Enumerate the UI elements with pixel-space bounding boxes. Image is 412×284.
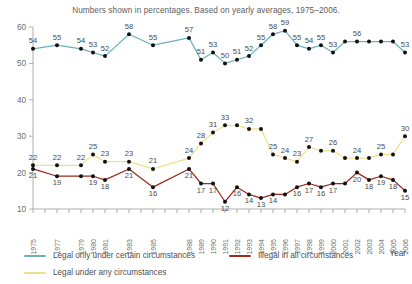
svg-text:57: 57 (185, 25, 193, 34)
svg-text:14: 14 (269, 196, 277, 205)
chart-legend: Legal only under certain circumstances I… (24, 249, 412, 283)
svg-text:21: 21 (29, 171, 37, 180)
svg-text:53: 53 (89, 40, 97, 49)
svg-text:13: 13 (257, 200, 265, 209)
svg-text:19: 19 (377, 178, 385, 187)
chart-series (31, 29, 407, 204)
svg-text:24: 24 (185, 146, 193, 155)
svg-text:14: 14 (245, 196, 253, 205)
svg-text:55: 55 (317, 33, 325, 42)
svg-text:23: 23 (101, 149, 109, 158)
svg-text:50: 50 (221, 51, 229, 60)
svg-text:21: 21 (149, 156, 157, 165)
svg-text:59: 59 (281, 18, 289, 27)
svg-text:53: 53 (401, 40, 409, 49)
svg-text:55: 55 (293, 33, 301, 42)
svg-text:52: 52 (101, 44, 109, 53)
svg-text:16: 16 (317, 189, 325, 198)
svg-text:21: 21 (185, 171, 193, 180)
legend-item-illegal-all[interactable]: Illegal in all circumstances (229, 249, 353, 262)
svg-text:25: 25 (89, 142, 97, 151)
svg-text:24: 24 (353, 146, 361, 155)
svg-text:40: 40 (17, 96, 27, 105)
svg-text:54: 54 (305, 36, 313, 45)
svg-text:28: 28 (197, 131, 205, 140)
svg-text:60: 60 (17, 23, 27, 32)
svg-text:16: 16 (293, 189, 301, 198)
legend-item-legal-any[interactable]: Legal under any circumstances (24, 266, 166, 279)
line-chart: Numbers shown in percentages. Based on y… (0, 0, 412, 284)
legend-swatch-teal (24, 255, 46, 257)
svg-text:30: 30 (17, 132, 27, 141)
svg-text:22: 22 (29, 153, 37, 162)
svg-text:16: 16 (233, 189, 241, 198)
svg-text:27: 27 (305, 135, 313, 144)
svg-text:23: 23 (293, 149, 301, 158)
svg-text:55: 55 (149, 33, 157, 42)
svg-text:54: 54 (29, 36, 37, 45)
svg-text:19: 19 (53, 178, 61, 187)
legend-label-illegal-all: Illegal in all circumstances (258, 251, 353, 260)
svg-text:26: 26 (329, 138, 337, 147)
svg-text:19: 19 (89, 178, 97, 187)
svg-text:32: 32 (245, 116, 253, 125)
svg-text:10: 10 (17, 205, 27, 214)
chart-axes: 1020304050601975197719791980198119831985… (17, 23, 409, 255)
svg-text:21: 21 (125, 171, 133, 180)
svg-text:55: 55 (257, 33, 265, 42)
svg-text:53: 53 (329, 40, 337, 49)
svg-text:51: 51 (233, 47, 241, 56)
svg-text:16: 16 (149, 189, 157, 198)
svg-text:53: 53 (209, 40, 217, 49)
svg-text:17: 17 (305, 186, 313, 195)
chart-point-labels: 5455545352585557515350515255585955545553… (29, 18, 409, 213)
svg-text:20: 20 (353, 175, 361, 184)
svg-text:25: 25 (269, 142, 277, 151)
svg-text:58: 58 (125, 22, 133, 31)
svg-text:18: 18 (389, 182, 397, 191)
svg-text:23: 23 (125, 149, 133, 158)
x-axis-title: Year (389, 249, 406, 258)
svg-text:24: 24 (281, 146, 289, 155)
svg-text:50: 50 (17, 59, 27, 68)
legend-label-legal-any: Legal under any circumstances (53, 268, 166, 277)
svg-text:31: 31 (209, 120, 217, 129)
svg-text:58: 58 (269, 22, 277, 31)
svg-text:20: 20 (17, 169, 27, 178)
svg-text:17: 17 (329, 186, 337, 195)
legend-swatch-red (229, 255, 251, 257)
svg-text:55: 55 (53, 33, 61, 42)
svg-text:17: 17 (209, 186, 217, 195)
svg-text:18: 18 (101, 182, 109, 191)
svg-text:17: 17 (197, 186, 205, 195)
svg-text:33: 33 (221, 113, 229, 122)
svg-text:52: 52 (245, 44, 253, 53)
svg-text:25: 25 (377, 142, 385, 151)
svg-text:22: 22 (77, 153, 85, 162)
chart-plot-area: 1020304050601975197719791980198119831985… (0, 0, 412, 284)
legend-label-legal-certain: Legal only under certain circumstances (53, 251, 195, 260)
svg-text:54: 54 (77, 36, 85, 45)
svg-text:18: 18 (365, 182, 373, 191)
svg-text:15: 15 (401, 193, 409, 202)
svg-text:12: 12 (221, 204, 229, 213)
svg-text:51: 51 (197, 47, 205, 56)
legend-swatch-yellow (24, 272, 46, 274)
svg-text:22: 22 (53, 153, 61, 162)
svg-text:30: 30 (401, 124, 409, 133)
svg-text:56: 56 (353, 29, 361, 38)
legend-item-legal-certain[interactable]: Legal only under certain circumstances (24, 249, 195, 262)
